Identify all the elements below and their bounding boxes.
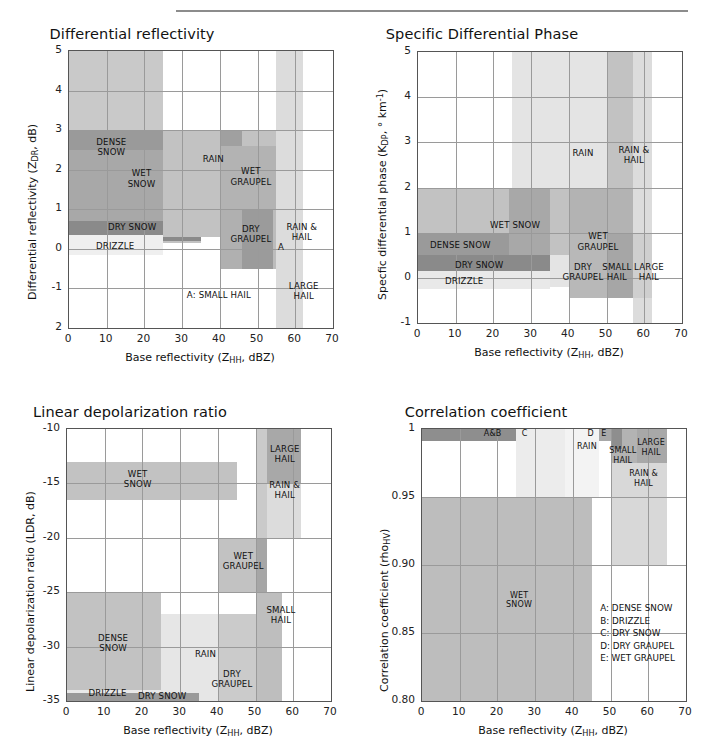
ylabel-pre: Correlation coefficient (rho — [378, 545, 391, 692]
ylabel-post: ) — [378, 529, 391, 533]
axis-tick-x: 50 — [590, 705, 630, 717]
axis-tick-y: 0.95 — [375, 489, 415, 501]
ylabel-subscript: HV — [382, 533, 392, 545]
axis-tick-y: 0.80 — [375, 693, 415, 705]
axis-tick-x: 0 — [401, 705, 441, 717]
region-label: RAIN & HAIL — [594, 469, 694, 488]
axis-tick-x: 20 — [476, 705, 516, 717]
panel-title-rhohv: Correlation coefficient — [314, 404, 658, 420]
axis-tick-x: 40 — [552, 705, 592, 717]
axis-tick-x: 70 — [665, 705, 701, 717]
region-label: E — [554, 429, 654, 438]
axis-tick-x: 30 — [514, 705, 554, 717]
axis-tick-y: 1 — [375, 421, 415, 433]
axis-title-x: Base reflectivity (ZHH, dBZ) — [271, 724, 701, 738]
gridline-horizontal — [422, 565, 686, 566]
region-label: SMALL HAIL — [573, 446, 673, 465]
axis-tick-x: 60 — [627, 705, 667, 717]
axis-tick-x: 10 — [439, 705, 479, 717]
axis-title-y: Correlation coefficient (rhoHV) — [378, 529, 392, 692]
panel-rhohv: Correlation coefficientA&BCDERAINLARGE H… — [0, 0, 701, 744]
gridline-horizontal — [422, 497, 686, 498]
xlabel-post: , dBZ) — [595, 724, 628, 737]
region-label: WET SNOW — [469, 591, 569, 610]
xlabel-pre: Base reflectivity (Z — [478, 724, 582, 737]
legend-abbreviations: A: DENSE SNOW B: DRIZZLE C: DRY SNOW D: … — [600, 602, 675, 665]
xlabel-subscript: HH — [582, 728, 594, 738]
